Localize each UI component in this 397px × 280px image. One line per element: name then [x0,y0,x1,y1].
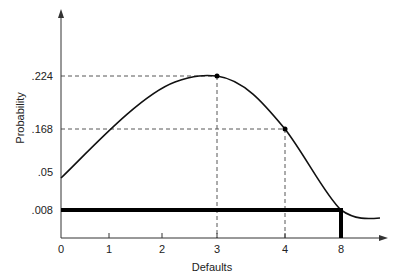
x-tick-label: 1 [106,243,112,255]
y-tick-label: .168 [32,123,53,135]
probability-curve [61,76,380,219]
y-ticks: .224.168.05.008 [32,70,53,216]
x-tick-label: 4 [282,243,288,255]
threshold-lines [61,208,343,238]
data-point [215,74,220,79]
y-tick-label: .05 [38,166,53,178]
y-axis-arrow [58,9,64,18]
y-axis-title: Probability [14,92,26,144]
x-tick-label: 3 [214,243,220,255]
axes [58,9,388,241]
x-ticks: 012348 [58,233,344,255]
y-tick-label: .224 [32,70,53,82]
guide-lines [61,76,285,238]
chart: 012348 .224.168.05.008 Defaults Probabil… [0,0,397,280]
highlighted-points [215,74,288,132]
x-tick-label: 8 [338,243,344,255]
data-point [283,127,288,132]
y-tick-label: .008 [32,204,53,216]
x-axis-arrow [379,235,388,241]
x-tick-label: 0 [58,243,64,255]
x-tick-label: 2 [159,243,165,255]
x-axis-title: Defaults [192,261,233,273]
